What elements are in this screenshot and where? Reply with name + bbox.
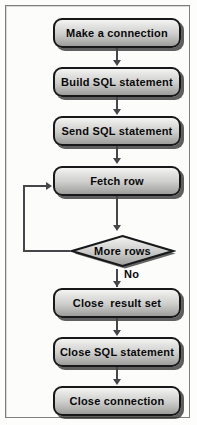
node-close-result-set[interactable]: Close result set — [53, 288, 181, 318]
flowchart-canvas: Make a connection Build SQL statement Se… — [0, 0, 197, 425]
node-label: Close SQL statement — [60, 347, 174, 358]
node-label: Build SQL statement — [61, 77, 173, 88]
arrowhead-down-icon — [113, 60, 121, 66]
node-more-rows[interactable]: More rows — [69, 233, 176, 269]
node-label: Fetch row — [90, 176, 144, 187]
loop-segment-horizontal-bottom — [23, 250, 70, 252]
node-label: Send SQL statement — [62, 126, 173, 137]
arrowhead-down-icon — [113, 330, 121, 336]
arrowhead-down-icon — [113, 281, 121, 287]
arrowhead-down-icon — [113, 109, 121, 115]
arrowhead-right-icon — [46, 182, 52, 190]
arrowhead-down-icon — [113, 158, 121, 164]
node-label: Close result set — [73, 298, 161, 309]
diagram-frame: Make a connection Build SQL statement Se… — [5, 5, 190, 418]
node-make-connection[interactable]: Make a connection — [53, 18, 181, 48]
node-label: Make a connection — [66, 28, 168, 39]
node-close-connection[interactable]: Close connection — [53, 386, 181, 416]
arrowhead-down-icon — [113, 379, 121, 385]
node-label: More rows — [69, 233, 176, 269]
node-build-sql[interactable]: Build SQL statement — [53, 67, 181, 97]
loop-segment-vertical — [23, 185, 25, 252]
arrowhead-down-icon — [113, 225, 121, 231]
node-close-sql[interactable]: Close SQL statement — [53, 337, 181, 367]
loop-segment-horizontal-top — [23, 185, 47, 187]
edge-label-no: No — [124, 268, 139, 280]
node-send-sql[interactable]: Send SQL statement — [53, 116, 181, 146]
node-fetch-row[interactable]: Fetch row — [53, 166, 181, 196]
node-label: Close connection — [70, 396, 165, 407]
connector-fetch-row-to-more-rows — [116, 196, 118, 228]
